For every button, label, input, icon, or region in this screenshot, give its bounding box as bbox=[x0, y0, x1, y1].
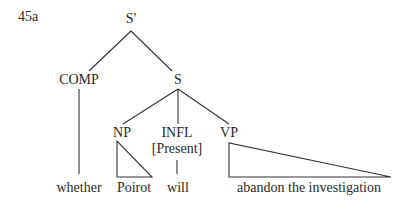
node-sbar: S' bbox=[126, 12, 136, 26]
node-s: S bbox=[174, 73, 182, 87]
branch-s-vp bbox=[178, 89, 229, 124]
branch-sbar-comp bbox=[89, 31, 131, 71]
np-triangle bbox=[117, 141, 152, 177]
infl-feature: [Present] bbox=[152, 142, 203, 156]
node-comp: COMP bbox=[59, 73, 99, 87]
node-np: NP bbox=[113, 126, 131, 140]
word-poirot: Poirot bbox=[117, 181, 151, 195]
vp-triangle bbox=[229, 143, 391, 177]
word-vp-phrase: abandon the investigation bbox=[237, 181, 381, 195]
branch-s-np bbox=[123, 89, 178, 124]
word-whether: whether bbox=[56, 181, 101, 195]
word-will: will bbox=[167, 181, 189, 195]
example-number: 45a bbox=[18, 10, 38, 24]
node-vp: VP bbox=[220, 126, 238, 140]
node-infl: INFL bbox=[161, 126, 192, 140]
branch-sbar-s bbox=[131, 31, 172, 71]
